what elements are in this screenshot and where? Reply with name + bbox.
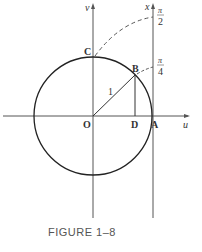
radius-label: 1 [108, 86, 113, 97]
point-d-label: D [131, 119, 138, 130]
u-axis-label: u [183, 119, 188, 130]
tick-pi-over-2: π 2 [157, 6, 164, 27]
u-axis [3, 114, 190, 118]
tick-pi-over-2-denominator: 2 [158, 16, 163, 27]
v-axis [91, 3, 95, 218]
radius-ob [93, 75, 135, 116]
tick-pi-over-4: π 4 [157, 56, 164, 77]
v-axis-label: v [85, 2, 90, 13]
point-a-label: A [151, 119, 159, 130]
figure-caption: FIGURE 1–8 [48, 226, 116, 238]
point-c-label: C [84, 46, 91, 57]
u-axis-arrow-icon [184, 114, 190, 118]
unit-circle-diagram: v x u C B O D A 1 π 2 π 4 [0, 0, 202, 252]
dashed-arc-c-to-pi-over-2 [95, 17, 153, 56]
point-o-label: O [83, 119, 91, 130]
x-axis-label: x [144, 1, 150, 12]
point-b-label: B [132, 63, 139, 74]
tick-pi-over-4-numerator: π [158, 56, 163, 65]
v-axis-arrow-icon [91, 3, 95, 9]
dashed-arc-b-to-pi-over-4 [137, 67, 153, 74]
tick-pi-over-4-denominator: 4 [158, 66, 163, 77]
tick-pi-over-2-numerator: π [158, 6, 163, 15]
x-axis-arrow-icon [151, 3, 155, 9]
